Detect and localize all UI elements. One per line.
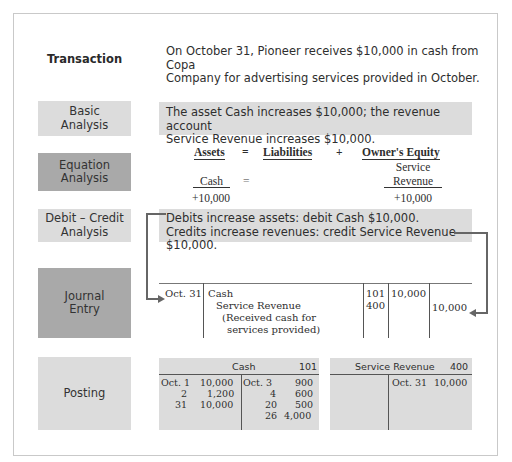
journal-credit-amount: 10,000: [432, 302, 467, 314]
equation-header-equals: =: [242, 146, 249, 158]
journal-top-rule: [159, 283, 472, 284]
equation-header-equity: Owner's Equity: [362, 146, 440, 160]
cash-account-name: Cash: [232, 361, 255, 372]
basic-analysis-text-line2: Service Revenue increases $10,000.: [166, 133, 465, 147]
credit-arrow-vertical: [486, 232, 488, 314]
service-revenue-credit-date-1: Oct. 31: [392, 377, 427, 389]
journal-entry-label: Journal Entry: [38, 268, 131, 338]
cash-credit-amount-2: 600: [295, 388, 313, 400]
equation-analysis-label-line2: Analysis: [59, 172, 110, 186]
journal-explanation-line2: services provided): [227, 324, 320, 336]
transaction-text: On October 31, Pioneer receives $10,000 …: [166, 45, 496, 86]
assets-account: Cash: [193, 175, 230, 188]
basic-analysis-label-line2: Analysis: [61, 119, 108, 133]
credit-arrow-horizontal-bottom: [476, 312, 488, 314]
posting-label: Posting: [38, 357, 131, 430]
cash-debit-amount-2: 1,200: [207, 388, 234, 400]
basic-analysis-label: Basic Analysis: [38, 101, 131, 136]
basic-analysis-label-line1: Basic: [61, 105, 108, 119]
cash-credit-amount-3: 500: [295, 399, 313, 411]
journal-divider-date: [203, 283, 204, 338]
credit-arrow-horizontal-top: [454, 232, 488, 234]
cash-account-number: 101: [299, 361, 317, 372]
service-revenue-t-horizontal: [330, 374, 472, 375]
transaction-text-line1: On October 31, Pioneer receives $10,000 …: [166, 45, 496, 72]
journal-debit-amount: 10,000: [391, 288, 426, 300]
cash-debit-date-2: 2: [181, 388, 187, 400]
transaction-text-line2: Company for advertising services provide…: [166, 72, 496, 86]
debit-credit-text-line1: Debits increase assets: debit Cash $10,0…: [166, 212, 465, 226]
cash-credit-date-3: 20: [265, 399, 277, 411]
basic-analysis-text-line1: The asset Cash increases $10,000; the re…: [166, 106, 465, 133]
equation-analysis-label: Equation Analysis: [38, 153, 131, 191]
equation-header-liabilities: Liabilities: [263, 146, 312, 160]
debit-arrow-vertical: [146, 213, 148, 300]
journal-credit-account: Service Revenue: [216, 300, 301, 312]
debit-credit-text: Debits increase assets: debit Cash $10,0…: [159, 209, 472, 242]
journal-divider-ref: [363, 283, 364, 338]
journal-entry-label-line1: Journal: [65, 290, 105, 304]
journal-date: Oct. 31: [165, 288, 202, 300]
cash-credit-date-2: 4: [270, 388, 276, 400]
service-revenue-t-vertical: [388, 374, 389, 430]
service-revenue-account-number: 400: [450, 361, 468, 372]
journal-entry-label-line2: Entry: [65, 303, 105, 317]
debit-credit-label-line1: Debit – Credit: [45, 212, 124, 226]
credit-arrowhead-icon: [469, 309, 476, 317]
basic-analysis-text: The asset Cash increases $10,000; the re…: [159, 102, 472, 135]
journal-explanation-line1: (Received cash for: [222, 312, 316, 324]
journal-debit-ref: 101: [366, 288, 385, 300]
assets-change: +10,000: [190, 192, 232, 204]
debit-arrowhead-icon: [158, 295, 165, 303]
equity-account-line1: Service: [384, 161, 442, 173]
transaction-label: Transaction: [38, 52, 131, 66]
cash-t-horizontal: [159, 374, 319, 375]
equity-change: +10,000: [384, 192, 442, 204]
posting-label-text: Posting: [64, 387, 106, 401]
cash-credit-amount-1: 900: [295, 377, 313, 389]
journal-debit-account: Cash: [208, 288, 233, 300]
debit-arrow-horizontal-top: [146, 213, 166, 215]
cash-debit-amount-1: 10,000: [200, 377, 233, 389]
journal-divider-debit: [388, 283, 389, 338]
cash-credit-date-4: 26: [265, 410, 277, 422]
equation-analysis-label-line1: Equation: [59, 159, 110, 173]
assets-equals: =: [243, 175, 250, 187]
journal-credit-ref: 400: [366, 300, 385, 312]
service-revenue-account-name: Service Revenue: [355, 361, 435, 372]
cash-debit-date-3: 31: [175, 399, 187, 411]
equity-account-line2: Revenue: [384, 175, 442, 188]
cash-debit-date-1: Oct. 1: [161, 377, 190, 389]
equation-header-assets: Assets: [194, 146, 225, 160]
cash-credit-amount-4: 4,000: [284, 410, 311, 422]
debit-credit-text-line2: Credits increase revenues: credit Servic…: [166, 226, 465, 253]
cash-debit-amount-3: 10,000: [200, 399, 233, 411]
equation-header-plus: +: [336, 146, 343, 158]
service-revenue-credit-amount-1: 10,000: [434, 377, 467, 389]
cash-credit-date-1: Oct. 3: [243, 377, 272, 389]
debit-credit-analysis-label: Debit – Credit Analysis: [38, 209, 131, 242]
debit-credit-label-line2: Analysis: [45, 226, 124, 240]
journal-divider-credit: [429, 283, 430, 338]
cash-t-vertical: [241, 374, 242, 430]
